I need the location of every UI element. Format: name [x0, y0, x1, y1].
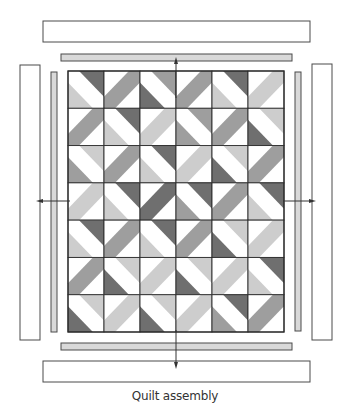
- quilt-block: [176, 71, 212, 108]
- quilt-block: [104, 108, 140, 145]
- outer-border-left: [20, 65, 40, 340]
- quilt-block: [212, 183, 248, 220]
- quilt-block: [248, 108, 284, 145]
- quilt-block: [104, 220, 140, 257]
- quilt-block: [176, 220, 212, 257]
- outer-border-top: [43, 21, 310, 42]
- quilt-block: [104, 257, 140, 294]
- quilt-block: [176, 257, 212, 294]
- quilt-block: [68, 257, 104, 294]
- quilt-block: [104, 183, 140, 220]
- quilt-block: [140, 257, 176, 294]
- quilt-block: [140, 108, 176, 145]
- quilt-block: [104, 146, 140, 183]
- inner-border-left: [51, 72, 57, 332]
- quilt-diagram-canvas: [0, 0, 350, 409]
- figure-caption: Quilt assembly: [0, 389, 350, 403]
- quilt-block: [212, 220, 248, 257]
- quilt-center: [68, 71, 284, 332]
- quilt-block: [248, 71, 284, 108]
- quilt-block: [176, 183, 212, 220]
- quilt-block: [212, 108, 248, 145]
- quilt-block: [68, 183, 104, 220]
- quilt-block: [140, 146, 176, 183]
- quilt-block: [68, 71, 104, 108]
- quilt-block: [140, 183, 176, 220]
- quilt-block: [248, 220, 284, 257]
- quilt-block: [68, 295, 104, 332]
- quilt-assembly-diagram: Quilt assembly: [0, 0, 350, 409]
- quilt-block: [104, 295, 140, 332]
- quilt-block: [212, 257, 248, 294]
- quilt-block: [212, 295, 248, 332]
- quilt-block: [176, 295, 212, 332]
- quilt-block: [140, 220, 176, 257]
- quilt-block: [104, 71, 140, 108]
- quilt-block: [248, 257, 284, 294]
- quilt-block: [248, 183, 284, 220]
- quilt-block: [212, 146, 248, 183]
- quilt-block: [248, 295, 284, 332]
- outer-border-right: [312, 64, 332, 340]
- quilt-block: [68, 146, 104, 183]
- quilt-block: [140, 71, 176, 108]
- quilt-block: [248, 146, 284, 183]
- quilt-block: [68, 108, 104, 145]
- quilt-block: [212, 71, 248, 108]
- quilt-block: [176, 108, 212, 145]
- quilt-block: [140, 295, 176, 332]
- quilt-block: [176, 146, 212, 183]
- quilt-block: [68, 220, 104, 257]
